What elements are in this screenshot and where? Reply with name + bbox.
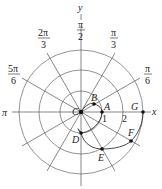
svg-text:2π: 2π [38, 27, 48, 38]
label-e: E [97, 152, 104, 163]
label-g: G [131, 101, 138, 112]
svg-text:2: 2 [78, 31, 83, 42]
angle-label-pi2: π 2 [77, 19, 85, 42]
label-d: D [71, 134, 80, 145]
angle-label-pi3: π 3 [110, 27, 118, 50]
point-c [79, 110, 83, 114]
svg-text:3: 3 [41, 39, 46, 50]
angle-label-2pi3: 2π 3 [38, 27, 50, 50]
radius-label-2: 2 [122, 113, 127, 124]
angle-label-pi: π [2, 107, 8, 118]
point-g [141, 110, 145, 114]
label-a: A [103, 101, 111, 112]
svg-text:π: π [111, 27, 116, 38]
svg-text:5π: 5π [8, 63, 18, 74]
point-d [79, 131, 83, 135]
svg-text:3: 3 [111, 39, 116, 50]
point-f [129, 139, 133, 143]
angle-label-5pi6: 5π 6 [8, 63, 20, 86]
radius-label-1: 1 [102, 113, 107, 124]
label-c: C [72, 106, 79, 117]
y-axis-label: y [77, 2, 83, 13]
svg-text:6: 6 [11, 75, 16, 86]
label-b: B [91, 92, 97, 103]
angle-label-pi6: π 6 [144, 63, 152, 86]
svg-text:6: 6 [145, 75, 150, 86]
point-e [100, 147, 104, 151]
polar-diagram: C B A D E F G 1 2 x y π 5π 6 2π 3 π 2 π … [0, 0, 162, 189]
label-f: F [127, 127, 135, 138]
x-axis-label: x [151, 106, 157, 117]
svg-text:π: π [78, 19, 83, 30]
svg-text:π: π [145, 63, 150, 74]
